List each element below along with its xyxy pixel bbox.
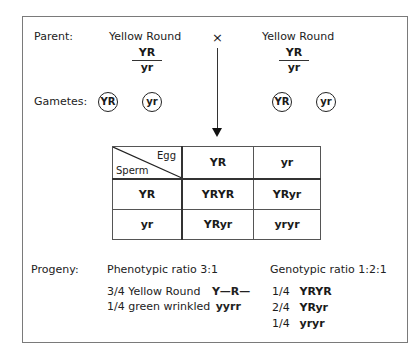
gametes-label: Gametes: bbox=[34, 95, 87, 108]
genotype-value: YRYR bbox=[300, 285, 332, 298]
punnett-corner: Egg Sperm bbox=[113, 147, 183, 180]
phenotype-item-2: 1/4 green wrinkled yyrr bbox=[107, 300, 241, 313]
parent-label: Parent: bbox=[34, 30, 73, 43]
punnett-cell: YRyr bbox=[182, 210, 254, 240]
genotypic-ratio-title: Genotypic ratio 1:2:1 bbox=[270, 263, 387, 276]
phenotype-item-1: 3/4 Yellow Round Y—R— bbox=[107, 285, 250, 298]
parent-left-genotype: YR yr bbox=[132, 46, 162, 75]
punnett-cell: YRyr bbox=[254, 179, 321, 210]
parent-right-genotype-top: YR bbox=[279, 46, 309, 61]
genotype-fraction: 1/4 bbox=[272, 317, 296, 330]
egg-header-1: YR bbox=[182, 147, 254, 180]
punnett-cell: yryr bbox=[254, 210, 321, 240]
arrow-line bbox=[217, 48, 218, 129]
genotype-value: YRyr bbox=[300, 301, 329, 314]
egg-label: Egg bbox=[157, 150, 176, 161]
genotype-fraction: 2/4 bbox=[272, 301, 296, 314]
phenotype-item-text: 1/4 green wrinkled bbox=[107, 300, 210, 313]
sperm-header-1: YR bbox=[113, 179, 183, 210]
genotype-item-2: 2/4 YRyr bbox=[272, 301, 328, 314]
parent-right-phenotype: Yellow Round bbox=[262, 30, 334, 43]
parent-right-genotype-bottom: yr bbox=[279, 61, 309, 75]
genotype-item-1: 1/4 YRYR bbox=[272, 285, 332, 298]
punnett-square: Egg Sperm YR yr YR YRYR YRyr yr YRyr yry… bbox=[112, 146, 321, 240]
punnett-row: YR YRYR YRyr bbox=[113, 179, 321, 210]
phenotype-item-text: 3/4 Yellow Round bbox=[107, 285, 200, 298]
parent-left-phenotype: Yellow Round bbox=[109, 30, 181, 43]
genotype-fraction: 1/4 bbox=[272, 285, 296, 298]
sperm-label: Sperm bbox=[116, 165, 149, 176]
gamete-left-1: YR bbox=[98, 92, 118, 112]
punnett-cell: YRYR bbox=[182, 179, 254, 210]
progeny-label: Progeny: bbox=[31, 263, 79, 276]
phenotype-item-genotype: Y—R— bbox=[212, 285, 250, 298]
genotype-value: yryr bbox=[300, 317, 325, 330]
sperm-header-2: yr bbox=[113, 210, 183, 240]
gamete-left-2: yr bbox=[142, 92, 162, 112]
phenotypic-ratio-title: Phenotypic ratio 3:1 bbox=[107, 263, 218, 276]
cross-icon: × bbox=[212, 30, 223, 45]
punnett-header-row: Egg Sperm YR yr bbox=[113, 147, 321, 180]
gamete-right-1: YR bbox=[272, 92, 292, 112]
parent-left-genotype-top: YR bbox=[132, 46, 162, 61]
phenotype-item-genotype: yyrr bbox=[216, 300, 241, 313]
arrow-down-icon bbox=[212, 128, 222, 137]
genotype-item-3: 1/4 yryr bbox=[272, 317, 325, 330]
punnett-row: yr YRyr yryr bbox=[113, 210, 321, 240]
parent-left-genotype-bottom: yr bbox=[132, 61, 162, 75]
gamete-right-2: yr bbox=[316, 92, 336, 112]
egg-header-2: yr bbox=[254, 147, 321, 180]
parent-right-genotype: YR yr bbox=[279, 46, 309, 75]
